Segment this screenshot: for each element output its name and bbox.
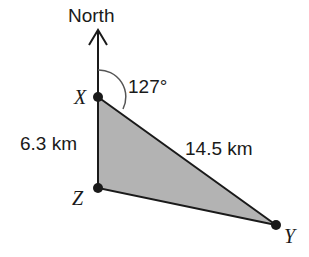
point-x-label: X (73, 86, 87, 108)
angle-label: 127° (128, 76, 167, 97)
point-x (93, 92, 103, 102)
side-xy-label: 14.5 km (185, 138, 253, 159)
north-label: North (68, 5, 114, 26)
triangle-diagram: North 127° X Z Y 6.3 km 14.5 km (0, 0, 309, 257)
point-z (93, 183, 103, 193)
point-y (271, 220, 281, 230)
point-z-label: Z (72, 187, 84, 209)
triangle-xyz (98, 97, 276, 225)
side-xz-label: 6.3 km (20, 133, 77, 154)
point-y-label: Y (284, 225, 297, 247)
